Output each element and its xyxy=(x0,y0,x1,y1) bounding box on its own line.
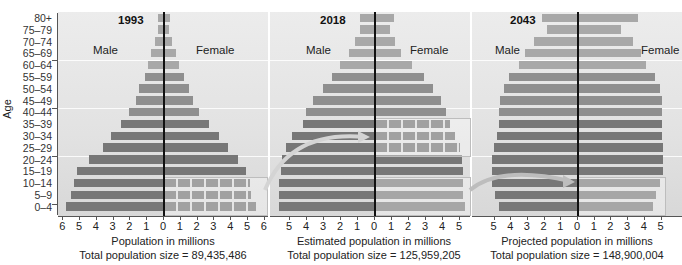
x-tick-label: 2 xyxy=(603,220,617,232)
female-bar xyxy=(578,108,662,117)
y-axis-tick xyxy=(52,156,57,157)
cohort-highlight-box xyxy=(163,177,268,216)
female-label: Female xyxy=(641,44,679,56)
age-group-label: 25–29 xyxy=(14,143,52,155)
male-bar xyxy=(500,96,577,105)
female-bar xyxy=(578,49,641,58)
male-bar xyxy=(129,108,163,117)
male-bar xyxy=(282,155,374,164)
panel-year-title: 1993 xyxy=(118,14,144,26)
panel-year-title: 2043 xyxy=(510,14,536,26)
male-bar xyxy=(547,25,577,34)
female-bar xyxy=(578,143,663,152)
male-bar xyxy=(360,14,374,23)
x-tick-label: 1 xyxy=(384,220,398,232)
x-tick-label: 2 xyxy=(190,220,204,232)
age-axis-label: Age xyxy=(0,95,14,125)
female-bar xyxy=(578,61,646,70)
female-bar xyxy=(164,167,246,176)
age-group-label: 50–54 xyxy=(14,84,52,96)
x-tick-label: 4 xyxy=(503,220,517,232)
male-bar xyxy=(355,37,374,46)
male-bar xyxy=(349,49,375,58)
female-bar xyxy=(375,96,441,105)
male-bar xyxy=(492,155,577,164)
cohort-highlight-box xyxy=(374,177,471,216)
female-bar xyxy=(375,108,446,117)
female-bar xyxy=(578,14,638,23)
male-bar xyxy=(332,73,375,82)
female-bar xyxy=(578,120,662,129)
age-group-label: 55–59 xyxy=(14,72,52,84)
age-group-label: 75–79 xyxy=(14,25,52,37)
total-population-label: Total population size = 125,959,205 xyxy=(264,249,484,261)
total-population-label: Total population size = 148,900,004 xyxy=(467,249,682,261)
female-bar xyxy=(164,61,179,70)
y-axis-tick xyxy=(52,108,57,109)
male-bar xyxy=(155,37,163,46)
x-tick-label: 2 xyxy=(401,220,415,232)
x-tick-label: 2 xyxy=(537,220,551,232)
female-bar xyxy=(164,132,219,141)
male-bar xyxy=(136,96,163,105)
female-bar xyxy=(164,73,184,82)
male-bar xyxy=(74,179,163,188)
female-bar xyxy=(164,96,193,105)
male-bar xyxy=(499,120,577,129)
x-tick-label: 5 xyxy=(452,220,466,232)
female-bar xyxy=(375,49,401,58)
male-bar xyxy=(292,132,374,141)
male-bar xyxy=(499,202,577,211)
male-bar xyxy=(148,61,163,70)
x-tick-label: 4 xyxy=(299,220,313,232)
x-tick-label: 4 xyxy=(435,220,449,232)
male-bar xyxy=(494,143,578,152)
x-tick-label: 0 xyxy=(570,220,584,232)
x-tick-label: 4 xyxy=(637,220,651,232)
x-tick-label: 4 xyxy=(223,220,237,232)
y-axis-tick xyxy=(52,204,57,205)
y-axis-tick xyxy=(52,60,57,61)
female-bar xyxy=(164,14,170,23)
male-bar xyxy=(519,61,577,70)
male-bar xyxy=(66,202,163,211)
x-axis-title: Estimated population in millions xyxy=(264,235,484,247)
x-tick-label: 0 xyxy=(156,220,170,232)
female-bar xyxy=(164,25,169,34)
female-bar xyxy=(375,73,424,82)
female-bar xyxy=(164,143,228,152)
male-bar xyxy=(360,25,374,34)
female-bar xyxy=(164,155,238,164)
female-bar xyxy=(578,37,633,46)
panel-year-title: 2018 xyxy=(320,14,346,26)
x-tick-label: 3 xyxy=(316,220,330,232)
x-tick-label: 1 xyxy=(139,220,153,232)
female-bar xyxy=(375,61,412,70)
x-tick-label: 4 xyxy=(89,220,103,232)
male-bar xyxy=(495,191,577,200)
pyramid-panel-2018 xyxy=(270,12,470,216)
male-bar xyxy=(111,132,163,141)
male-bar xyxy=(492,179,577,188)
male-bar xyxy=(542,14,577,23)
male-bar xyxy=(303,120,374,129)
x-tick-label: 5 xyxy=(72,220,86,232)
male-bar xyxy=(534,37,577,46)
age-group-label: 5–9 xyxy=(14,190,52,202)
male-bar xyxy=(509,73,577,82)
female-bar xyxy=(578,84,660,93)
female-bar xyxy=(164,84,189,93)
male-bar xyxy=(281,167,375,176)
male-bar xyxy=(279,202,374,211)
x-tick-label: 3 xyxy=(620,220,634,232)
female-label: Female xyxy=(410,44,448,56)
male-bar xyxy=(71,191,163,200)
x-tick-label: 5 xyxy=(240,220,254,232)
pyramid-panel-2043 xyxy=(472,12,682,216)
male-bar xyxy=(340,61,374,70)
x-tick-label: 3 xyxy=(106,220,120,232)
female-bar xyxy=(164,120,209,129)
female-bar xyxy=(164,37,172,46)
male-bar xyxy=(121,120,163,129)
female-bar xyxy=(164,108,199,117)
